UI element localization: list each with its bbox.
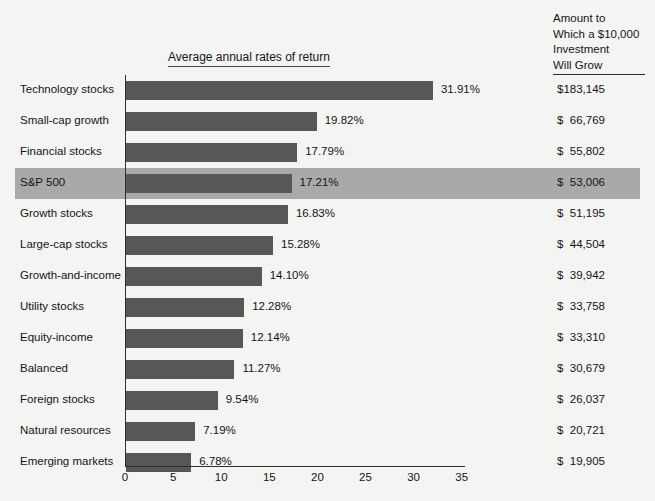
bar[interactable]: [126, 112, 317, 131]
category-label: Utility stocks: [20, 300, 84, 312]
category-label: Balanced: [20, 362, 68, 374]
bar-value-label: 11.27%: [242, 362, 280, 374]
table-row[interactable]: Small-cap growth19.82%$ 66,769: [0, 106, 655, 137]
bar[interactable]: [126, 298, 244, 317]
x-axis-tick-label: 35: [455, 471, 468, 483]
table-row[interactable]: Utility stocks12.28%$ 33,758: [0, 292, 655, 323]
category-label: Growth-and-income: [20, 269, 121, 281]
category-label: Growth stocks: [20, 207, 93, 219]
bar[interactable]: [126, 236, 273, 255]
table-row[interactable]: Emerging markets6.78%$ 19,905: [0, 447, 655, 478]
x-axis-tick-label: 30: [407, 471, 420, 483]
bar-value-label: 31.91%: [441, 83, 480, 95]
bar[interactable]: [126, 391, 218, 410]
x-axis-tick-label: 20: [311, 471, 324, 483]
amount-value: $183,145: [557, 83, 605, 95]
table-row[interactable]: Financial stocks17.79%$ 55,802: [0, 137, 655, 168]
bar[interactable]: [126, 174, 292, 193]
category-label: Small-cap growth: [20, 114, 109, 126]
bar[interactable]: [126, 205, 288, 224]
amount-value: $ 33,758: [557, 300, 605, 312]
bar-value-label: 14.10%: [270, 269, 309, 281]
bar[interactable]: [126, 329, 243, 348]
amount-value: $ 39,942: [557, 269, 605, 281]
bar-value-label: 9.54%: [226, 393, 259, 405]
category-label: Emerging markets: [20, 455, 113, 467]
amount-value: $ 19,905: [557, 455, 605, 467]
table-row[interactable]: S&P 50017.21%$ 53,006: [0, 168, 655, 199]
amount-value: $ 26,037: [557, 393, 605, 405]
chart-rows: Technology stocks31.91%$183,145Small-cap…: [0, 0, 655, 501]
bar[interactable]: [126, 81, 433, 100]
bar[interactable]: [126, 453, 191, 472]
table-row[interactable]: Balanced11.27%$ 30,679: [0, 354, 655, 385]
bar-value-label: 15.28%: [281, 238, 320, 250]
bar[interactable]: [126, 267, 262, 286]
bar-value-label: 7.19%: [203, 424, 236, 436]
bar[interactable]: [126, 422, 195, 441]
amount-value: $ 53,006: [557, 176, 605, 188]
category-label: S&P 500: [20, 176, 65, 188]
x-axis-tick-label: 5: [170, 471, 176, 483]
table-row[interactable]: Natural resources7.19%$ 20,721: [0, 416, 655, 447]
bar[interactable]: [126, 360, 234, 379]
category-label: Financial stocks: [20, 145, 102, 157]
table-row[interactable]: Foreign stocks9.54%$ 26,037: [0, 385, 655, 416]
category-label: Natural resources: [20, 424, 111, 436]
bar-value-label: 19.82%: [325, 114, 364, 126]
amount-value: $ 51,195: [557, 207, 605, 219]
x-axis-line: [125, 466, 465, 467]
table-row[interactable]: Large-cap stocks15.28%$ 44,504: [0, 230, 655, 261]
table-row[interactable]: Equity-income12.14%$ 33,310: [0, 323, 655, 354]
amount-value: $ 20,721: [557, 424, 605, 436]
x-axis-tick-label: 0: [122, 471, 128, 483]
x-axis-tick-label: 10: [215, 471, 228, 483]
category-label: Equity-income: [20, 331, 93, 343]
bar-value-label: 12.14%: [251, 331, 290, 343]
table-row[interactable]: Technology stocks31.91%$183,145: [0, 75, 655, 106]
category-label: Technology stocks: [20, 83, 114, 95]
amount-value: $ 44,504: [557, 238, 605, 250]
table-row[interactable]: Growth-and-income14.10%$ 39,942: [0, 261, 655, 292]
category-label: Foreign stocks: [20, 393, 95, 405]
bar-value-label: 17.79%: [305, 145, 344, 157]
amount-value: $ 66,769: [557, 114, 605, 126]
table-row[interactable]: Growth stocks16.83%$ 51,195: [0, 199, 655, 230]
bar[interactable]: [126, 143, 297, 162]
amount-value: $ 33,310: [557, 331, 605, 343]
amount-value: $ 30,679: [557, 362, 605, 374]
bar-value-label: 17.21%: [300, 176, 339, 188]
category-label: Large-cap stocks: [20, 238, 108, 250]
bar-value-label: 16.83%: [296, 207, 335, 219]
x-axis-tick-label: 15: [263, 471, 276, 483]
chart-page: Amount to Which a $10,000 Investment Wil…: [0, 0, 655, 501]
bar-value-label: 12.28%: [252, 300, 291, 312]
y-axis-line: [125, 75, 126, 466]
x-axis-tick-label: 25: [359, 471, 372, 483]
amount-value: $ 55,802: [557, 145, 605, 157]
